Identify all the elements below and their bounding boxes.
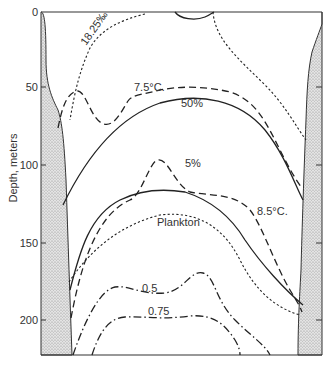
- isoline-salinity-left-curve: [70, 14, 145, 120]
- y-tick-150: 150: [20, 237, 38, 249]
- depth-profile-diagram: 0 50 100 150 200 Depth, meters 18.25‰ 7.…: [0, 0, 331, 365]
- y-tick-0: 0: [32, 6, 38, 18]
- label-05: 0.5: [142, 282, 157, 294]
- label-light5: 5%: [185, 157, 201, 169]
- isoline-temp75-curve: [58, 87, 302, 188]
- label-temp75: 7.5°C.: [134, 81, 165, 93]
- isoline-05-curve: [73, 273, 270, 355]
- isoline-plankton-curve: [69, 214, 300, 315]
- label-075: 0.75: [148, 305, 169, 317]
- label-light50: 50%: [181, 97, 203, 109]
- y-tick-100: 100: [20, 159, 38, 171]
- y-axis-title: Depth, meters: [7, 133, 19, 203]
- stippled-shore-left: [41, 12, 72, 355]
- isoline-salinity-curve: [213, 12, 306, 140]
- y-tick-50: 50: [26, 81, 38, 93]
- isoline-075-curve: [92, 316, 240, 355]
- y-tick-200: 200: [20, 314, 38, 326]
- isoline-light50-curve: [63, 98, 303, 205]
- label-temp85: 8.5°C.: [257, 205, 288, 217]
- label-plankton: Plankton: [157, 216, 200, 228]
- isoline-temp85-curve: [71, 160, 302, 318]
- surface-lens-curve: [175, 12, 214, 19]
